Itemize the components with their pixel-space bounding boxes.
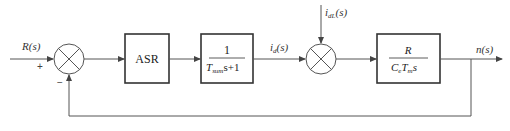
current-loop-block: 1 Tsums+1 bbox=[201, 34, 253, 83]
input-label: R(s) bbox=[21, 40, 41, 53]
summing-junction-2 bbox=[306, 44, 336, 74]
motor-block: R CeTms bbox=[377, 34, 440, 83]
summing-junction-1 bbox=[54, 44, 84, 74]
disturbance-label: idL(s) bbox=[325, 6, 347, 20]
motor-denominator: CeTms bbox=[391, 61, 417, 75]
asr-label: ASR bbox=[135, 52, 158, 66]
current-loop-numerator: 1 bbox=[224, 43, 230, 57]
motor-numerator: R bbox=[404, 44, 412, 56]
current-loop-denominator: Tsums+1 bbox=[206, 61, 239, 75]
output-label: n(s) bbox=[476, 43, 493, 56]
asr-block: ASR bbox=[125, 34, 169, 83]
control-block-diagram: R(s) + − ASR 1 Tsums+1 id(s) idL(s) R bbox=[0, 0, 510, 131]
current-signal-label: id(s) bbox=[270, 41, 289, 55]
plus-sign: + bbox=[37, 61, 43, 72]
minus-sign: − bbox=[57, 77, 63, 88]
